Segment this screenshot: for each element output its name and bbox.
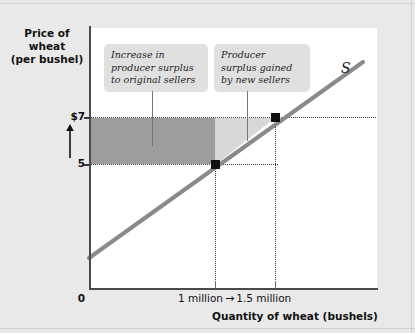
price-increase-arrow-icon: [65, 124, 75, 158]
x-tick-mark-1-million: [215, 281, 216, 288]
y-axis-title-line-3: (per bushel): [8, 53, 86, 66]
y-tick-label-7: $7: [47, 110, 85, 122]
x-axis-line: [89, 288, 378, 290]
y-axis-title: Price of wheat (per bushel): [8, 27, 86, 66]
reference-line-price-5: [90, 164, 278, 165]
figure-frame-bottom: [0, 328, 415, 329]
reference-line-quantity-1-5-million: [275, 117, 276, 288]
y-axis-title-line-2: wheat: [8, 40, 86, 53]
reference-line-quantity-1-million: [215, 164, 216, 288]
figure-frame-top: [0, 3, 415, 4]
y-tick-label-5: 5: [47, 157, 85, 169]
reference-line-price-7: [90, 117, 376, 118]
callout-leader-line-original: [152, 91, 153, 146]
callout-leader-line-new: [247, 91, 248, 141]
supply-curve-figure: S Increase in producer surplus to origin…: [0, 0, 415, 333]
callout-original-sellers: Increase in producer surplus to original…: [104, 44, 208, 92]
y-axis-title-line-1: Price of: [8, 27, 86, 40]
supply-curve-label: S: [341, 60, 351, 76]
x-tick-mark-1-5-million: [275, 281, 276, 288]
right-arrow-icon: →: [223, 292, 236, 305]
region-increase-producer-surplus-original: [91, 118, 215, 164]
x-tick-label-1-5-million: 1.5 million: [236, 292, 291, 304]
equilibrium-point-original: [211, 160, 220, 169]
x-axis-tick-labels: 1 million→1.5 million: [178, 292, 291, 305]
y-tick-mark-7: [84, 117, 90, 119]
y-tick-mark-5: [84, 164, 90, 166]
x-axis-title: Quantity of wheat (bushels): [212, 310, 378, 322]
region-producer-surplus-gained-new: [215, 118, 275, 164]
x-tick-label-1-million: 1 million: [178, 292, 223, 304]
origin-label: 0: [47, 292, 85, 304]
equilibrium-point-new: [271, 113, 280, 122]
callout-new-sellers: Producer surplus gained by new sellers: [214, 44, 310, 92]
region-triangle-shape: [215, 118, 275, 164]
figure-frame-right: [411, 0, 412, 333]
y-axis-line: [89, 26, 91, 290]
